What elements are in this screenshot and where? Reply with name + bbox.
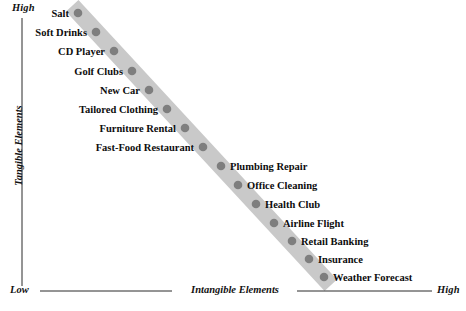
data-point [110,47,119,56]
y-axis-high-label: High [12,2,35,13]
data-point [252,200,261,209]
data-point [234,181,243,190]
data-point [288,237,297,246]
data-point [128,67,137,76]
data-point [217,162,226,171]
data-point-label: Office Cleaning [247,180,317,191]
data-point-label: Weather Forecast [333,272,412,283]
data-point-label: Plumbing Repair [230,161,307,172]
data-point-label: Retail Banking [301,236,368,247]
data-point-label: Salt [51,8,69,19]
data-point [92,28,101,37]
data-point [270,219,279,228]
data-point-label: New Car [100,85,140,96]
data-point-label: Golf Clubs [74,66,123,77]
data-point [145,86,154,95]
y-axis-low-label: Low [10,284,29,295]
x-axis-high-label: High [437,284,460,295]
data-point-label: Airline Flight [283,218,344,229]
data-point [199,143,208,152]
data-point [181,124,190,133]
tangibility-spectrum-chart: High Low High Tangible Elements Intangib… [0,0,466,311]
data-point [74,9,83,18]
data-point-label: Soft Drinks [35,27,87,38]
data-point [320,273,329,282]
data-point-label: Tailored Clothing [79,104,158,115]
data-point-label: CD Player [58,46,105,57]
data-point [305,255,314,264]
data-point-label: Health Club [265,199,320,210]
data-point [163,105,172,114]
data-point-label: Furniture Rental [99,123,176,134]
data-point-label: Fast-Food Restaurant [96,142,194,153]
y-axis-title: Tangible Elements [13,91,24,201]
x-axis-title: Intangible Elements [175,284,295,295]
data-point-label: Insurance [318,254,363,265]
